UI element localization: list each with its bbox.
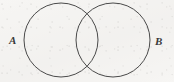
set-label-a: A: [9, 35, 17, 46]
set-label-b: B: [155, 36, 163, 47]
venn-diagram-canvas: [0, 0, 174, 82]
venn-diagram-figure: A B: [0, 0, 174, 82]
set-circle-b: [76, 3, 150, 77]
